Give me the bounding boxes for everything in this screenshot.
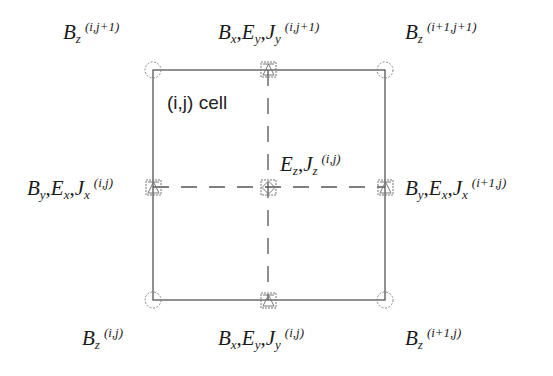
grid-index: (i,j+1) — [285, 19, 319, 34]
label-right-mid: By,Ex,Jx(i+1,j) — [405, 176, 506, 203]
grid-index: (i,j) — [94, 175, 113, 190]
grid-index: (i,j) — [322, 151, 341, 166]
grid-index: (i,j) — [104, 325, 123, 340]
label-bz-top-left: Bz(i,j+1) — [63, 20, 119, 47]
field-subscript: z — [312, 163, 317, 178]
grid-index: (i,j+1) — [85, 19, 119, 34]
field-subscript: x — [462, 187, 468, 202]
field-subscript: z — [418, 337, 423, 352]
field-subscript: x — [84, 187, 90, 202]
grid-index: (i,j) — [285, 325, 304, 340]
label-top-mid: Bx,Ey,Jy(i,j+1) — [218, 20, 319, 47]
field-symbol: J — [266, 326, 275, 350]
field-symbol: E — [429, 176, 442, 200]
label-bz-top-right: Bz(i+1,j+1) — [405, 20, 477, 47]
field-subscript: z — [95, 337, 100, 352]
label-center: Ez,Jz(i,j) — [280, 152, 341, 179]
grid-index: (i+1,j) — [472, 175, 506, 190]
field-subscript: y — [275, 337, 281, 352]
field-symbol: B — [405, 20, 418, 44]
field-symbol: E — [280, 152, 293, 176]
field-subscript: z — [76, 31, 81, 46]
label-bz-bottom-left: Bz(i,j) — [82, 326, 123, 353]
label-left-mid: By,Ex,Jx(i,j) — [27, 176, 113, 203]
cell-title: (i,j) cell — [167, 92, 227, 114]
field-symbol: J — [266, 20, 275, 44]
label-bottom-mid: Bx,Ey,Jy(i,j) — [218, 326, 304, 353]
field-symbol: E — [51, 176, 64, 200]
field-symbol: B — [82, 326, 95, 350]
field-symbol: E — [242, 326, 255, 350]
field-symbol: B — [218, 20, 231, 44]
label-bz-bottom-right: Bz(i+1,j) — [405, 326, 461, 353]
field-subscript: z — [418, 31, 423, 46]
grid-index: (i+1,j) — [427, 325, 461, 340]
field-symbol: B — [405, 326, 418, 350]
field-symbol: B — [27, 176, 40, 200]
field-symbol: B — [63, 20, 76, 44]
field-symbol: J — [75, 176, 84, 200]
field-symbol: E — [242, 20, 255, 44]
grid-index: (i+1,j+1) — [427, 19, 477, 34]
field-symbol: J — [453, 176, 462, 200]
field-subscript: y — [275, 31, 281, 46]
field-symbol: B — [218, 326, 231, 350]
field-symbol: B — [405, 176, 418, 200]
